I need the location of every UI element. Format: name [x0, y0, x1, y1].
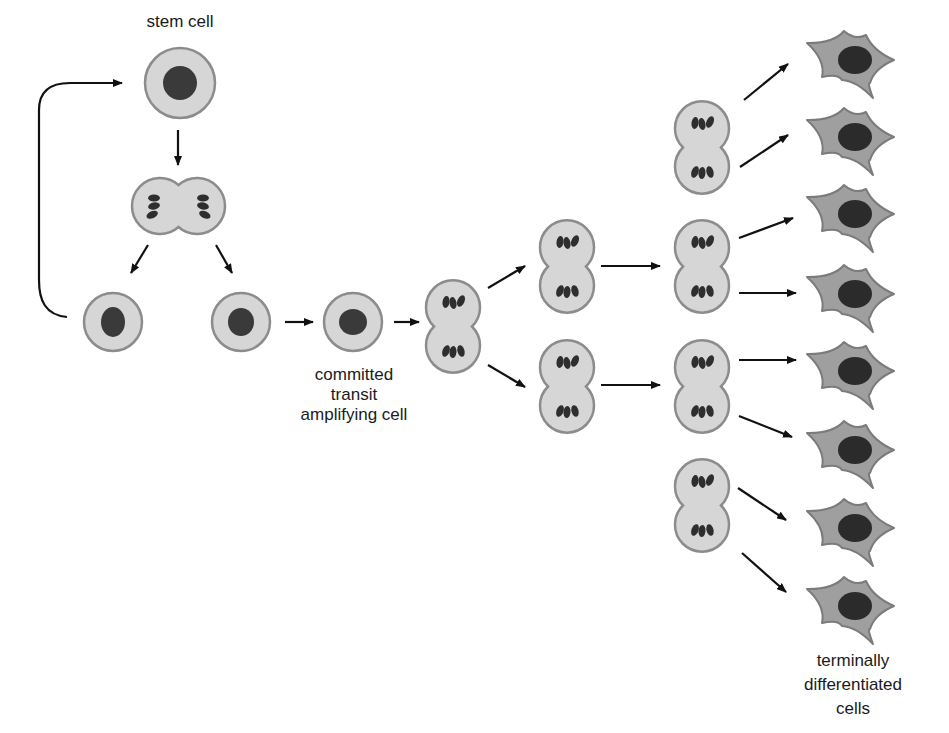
dividing-transit-cell: [675, 220, 729, 312]
arrow: [744, 64, 788, 100]
nucleus: [838, 46, 872, 74]
nucleus: [838, 280, 872, 308]
transit-label-line-1: committed: [315, 365, 393, 385]
cell-membrane: [675, 101, 729, 193]
arrow: [738, 488, 786, 520]
arrow: [131, 245, 148, 273]
dividing-transit-cell: [675, 340, 729, 432]
differentiated-cell: [807, 342, 894, 409]
stem-cell-label: stem cell: [146, 12, 213, 32]
nucleus: [838, 123, 872, 151]
chromosome: [197, 195, 209, 202]
terminal-label-line-1: terminally: [817, 651, 890, 671]
dividing-transit-cell: [675, 101, 729, 193]
dividing-transit-cell: [426, 280, 480, 372]
transit-amplifying-divisions: [426, 101, 729, 551]
cell-membrane: [675, 220, 729, 312]
differentiated-cell: [807, 577, 894, 644]
cell-membrane: [540, 220, 594, 312]
committed-transit-amplifying-cell: [324, 293, 382, 351]
nucleus: [228, 308, 254, 336]
nucleus: [101, 307, 125, 337]
daughter-cells: [84, 293, 382, 351]
nucleus: [838, 357, 872, 385]
cell-membrane: [675, 340, 729, 432]
daughter-cell: [212, 293, 270, 351]
stem-cell-lineage-diagram: [0, 0, 949, 733]
cell-membrane: [675, 459, 729, 551]
nucleus: [838, 514, 872, 542]
arrow: [216, 245, 232, 273]
nucleus: [163, 66, 197, 100]
arrow: [739, 218, 793, 238]
nucleus: [838, 436, 872, 464]
differentiated-cell: [807, 108, 894, 175]
self-renewal-arrow: [39, 83, 122, 317]
arrow: [488, 365, 525, 387]
dividing-transit-cell: [675, 459, 729, 551]
arrow: [488, 266, 525, 288]
self-renewed-stem-cell: [84, 293, 142, 351]
dividing-stem-cell: [132, 178, 225, 234]
transit-label-line-3: amplifying cell: [301, 405, 408, 425]
nucleus: [339, 309, 367, 335]
arrow: [739, 416, 792, 437]
differentiated-cell: [807, 31, 894, 98]
terminal-label-line-2: differentiated: [804, 675, 902, 695]
nucleus: [838, 200, 872, 228]
differentiated-cell: [807, 421, 894, 488]
chromosome: [148, 195, 160, 202]
cell-membrane: [426, 280, 480, 372]
arrow: [740, 135, 788, 167]
stem-cell: [145, 48, 215, 118]
arrow: [742, 553, 786, 592]
differentiated-cell: [807, 265, 894, 332]
dividing-transit-cell: [540, 340, 594, 432]
cell-membrane: [132, 178, 225, 234]
differentiated-cell: [807, 499, 894, 566]
terminal-label-line-3: cells: [836, 699, 870, 719]
dividing-transit-cell: [540, 220, 594, 312]
cell-membrane: [540, 340, 594, 432]
nucleus: [838, 592, 872, 620]
terminally-differentiated-cells: [807, 31, 894, 644]
transit-label-line-2: transit: [331, 385, 377, 405]
differentiated-cell: [807, 185, 894, 252]
